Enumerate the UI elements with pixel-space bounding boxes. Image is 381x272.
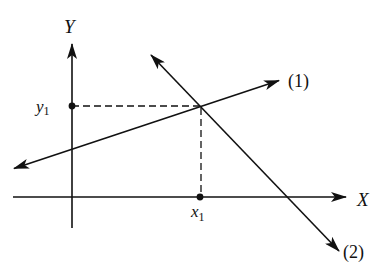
line-1-label: (1): [288, 71, 309, 92]
projection-lines: [72, 106, 201, 197]
y-axis-label: Y: [64, 16, 77, 37]
x1-label-sub: 1: [199, 210, 205, 224]
line-1: [14, 81, 279, 169]
line-intersection-diagram: Y X y1 x1 (1) (2): [0, 0, 381, 272]
y1-label: y1: [34, 97, 50, 118]
line-2-label: (2): [343, 242, 364, 263]
y1-label-main: y: [34, 97, 44, 116]
x1-label: x1: [190, 202, 205, 224]
line-2: [151, 55, 339, 251]
x-axis-label: X: [356, 189, 370, 210]
y1-point: [69, 103, 76, 110]
x1-point: [197, 194, 204, 201]
y1-label-sub: 1: [44, 104, 50, 118]
